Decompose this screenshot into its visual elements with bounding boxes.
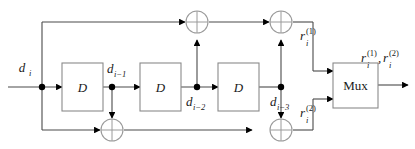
label-output-r2: r (2) i <box>300 103 316 125</box>
junction-node-d3-tap <box>278 84 284 90</box>
label-d3-base: d <box>270 94 277 109</box>
label-output-mux: r (1) i , r (2) i <box>361 48 399 70</box>
label-d2-base: d <box>186 94 193 109</box>
xor-gate-top-2[interactable] <box>270 11 292 33</box>
delay-block-d2[interactable]: D <box>140 63 181 111</box>
label-d1-output: d i−1 <box>107 61 126 79</box>
label-d2-output: d i−2 <box>186 94 206 112</box>
delay-block-d1[interactable]: D <box>62 63 103 111</box>
mux-label: Mux <box>343 78 368 93</box>
junction-node-d1-tap <box>109 84 115 90</box>
delay-block-d3-label: D <box>233 80 244 95</box>
label-input-di: d i <box>19 60 32 78</box>
xor-gate-bottom-2[interactable] <box>270 119 292 141</box>
label-rmux-sub2: i <box>389 60 392 70</box>
delay-block-d2-label: D <box>155 80 166 95</box>
junction-node-input-tap <box>39 84 45 90</box>
delay-block-d3[interactable]: D <box>218 63 259 111</box>
label-d1-base: d <box>107 61 114 76</box>
label-input-sub: i <box>29 68 32 78</box>
delay-block-d1-label: D <box>77 80 88 95</box>
label-d2-sub: i−2 <box>193 102 206 112</box>
label-d3-output: d i−3 <box>270 94 289 112</box>
label-rmux-sup2: (2) <box>389 48 399 58</box>
encoder-block-diagram: D D D Mux d i <box>0 0 415 149</box>
label-d1-sub: i−1 <box>114 69 126 79</box>
xor-gate-bottom-1[interactable] <box>101 119 123 141</box>
mux-block[interactable]: Mux <box>333 63 378 108</box>
xor-gate-top-1[interactable] <box>186 11 208 33</box>
label-output-r1: r (1) i <box>300 26 316 48</box>
label-d3-sub: i−3 <box>277 102 289 112</box>
label-r2-sub: i <box>306 115 309 125</box>
label-input-base: d <box>19 60 26 75</box>
label-rmux-separator: , <box>378 50 381 65</box>
label-r2-sup: (2) <box>306 103 316 113</box>
label-r1-sup: (1) <box>306 26 316 36</box>
junction-node-d2-tap <box>194 84 200 90</box>
label-r1-sub: i <box>306 38 309 48</box>
label-rmux-sup1: (1) <box>367 48 377 58</box>
